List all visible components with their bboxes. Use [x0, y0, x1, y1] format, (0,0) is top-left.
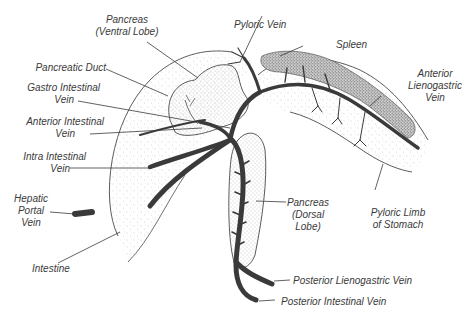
portal-system-diagram: Pancreas (Ventral Lobe) Pyloric Vein Spl…: [0, 0, 472, 323]
label-line: Pyloric Vein: [234, 19, 286, 31]
label-hepatic-portal-vein: Hepatic Portal Vein: [10, 193, 52, 229]
label-pyloric-vein: Pyloric Vein: [234, 19, 286, 31]
label-line: Spleen: [336, 39, 367, 51]
label-posterior-lienogastric-vein: Posterior Lienogastric Vein: [293, 275, 412, 287]
label-pancreas-ventral-lobe: Pancreas (Ventral Lobe): [82, 14, 172, 38]
label-pancreas-dorsal-lobe: Pancreas (Dorsal Lobe): [285, 197, 331, 233]
label-line: Pancreatic Duct: [28, 62, 106, 74]
label-line: Portal: [10, 205, 52, 217]
label-line: Gastro Intestinal: [20, 82, 100, 94]
label-intra-intestinal-vein: Intra Intestinal Vein: [18, 151, 86, 175]
label-line: Lobe): [285, 221, 331, 233]
label-gastro-intestinal-vein: Gastro Intestinal Vein: [20, 82, 100, 106]
label-line: Vein: [18, 163, 86, 175]
label-line: Hepatic: [10, 193, 52, 205]
label-line: Vein: [20, 94, 100, 106]
label-line: Vein: [400, 92, 470, 104]
label-spleen: Spleen: [336, 39, 367, 51]
label-anterior-lienogastric-vein: Anterior Lienogastric Vein: [400, 68, 470, 104]
label-line: Anterior Intestinal: [18, 116, 104, 128]
label-line: Anterior: [400, 68, 470, 80]
label-line: Lienogastric: [400, 80, 470, 92]
label-line: of Stomach: [366, 219, 430, 231]
label-line: Pancreas: [82, 14, 172, 26]
label-line: Intestine: [32, 263, 70, 275]
label-line: Intra Intestinal: [18, 151, 86, 163]
label-anterior-intestinal-vein: Anterior Intestinal Vein: [18, 116, 104, 140]
label-line: (Dorsal: [285, 209, 331, 221]
label-pancreatic-duct: Pancreatic Duct: [28, 62, 106, 74]
label-line: Pancreas: [285, 197, 331, 209]
label-line: (Ventral Lobe): [82, 26, 172, 38]
label-line: Vein: [10, 217, 52, 229]
label-line: Pyloric Limb: [366, 207, 430, 219]
label-posterior-intestinal-vein: Posterior Intestinal Vein: [281, 296, 386, 308]
label-pyloric-limb-of-stomach: Pyloric Limb of Stomach: [366, 207, 430, 231]
label-line: Posterior Intestinal Vein: [281, 296, 386, 308]
pancreas-dorsal-lobe-shape: [229, 133, 266, 267]
label-intestine: Intestine: [32, 263, 70, 275]
label-line: Posterior Lienogastric Vein: [293, 275, 412, 287]
label-line: Vein: [18, 128, 104, 140]
